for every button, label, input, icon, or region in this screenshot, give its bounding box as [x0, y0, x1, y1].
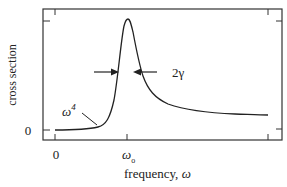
plot-frame [43, 9, 282, 140]
x-tick-label-omega0: ωo [122, 147, 135, 165]
width-arrow-right-icon [133, 69, 141, 76]
y-axis-label: cross section [5, 44, 19, 106]
resonance-chart: 2γ ω4 0 0 ωo frequency, ω cross section [0, 0, 287, 187]
x-tick-label-zero: 0 [53, 147, 60, 162]
y-tick-label-zero: 0 [25, 123, 32, 138]
x-axis-label: frequency, ω [124, 166, 191, 181]
width-label: 2γ [172, 65, 185, 80]
omega4-label: ω4 [62, 102, 76, 119]
omega4-leader-line [82, 113, 97, 125]
cross-section-curve [55, 19, 268, 130]
